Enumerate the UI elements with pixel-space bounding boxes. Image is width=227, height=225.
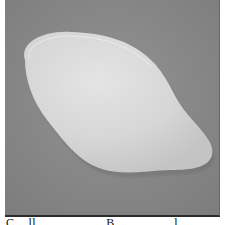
photo-image — [5, 0, 219, 215]
figure-caption: C... ll ... ... ... ... ...B ... ... ...… — [6, 216, 221, 225]
photo-frame — [5, 0, 220, 217]
